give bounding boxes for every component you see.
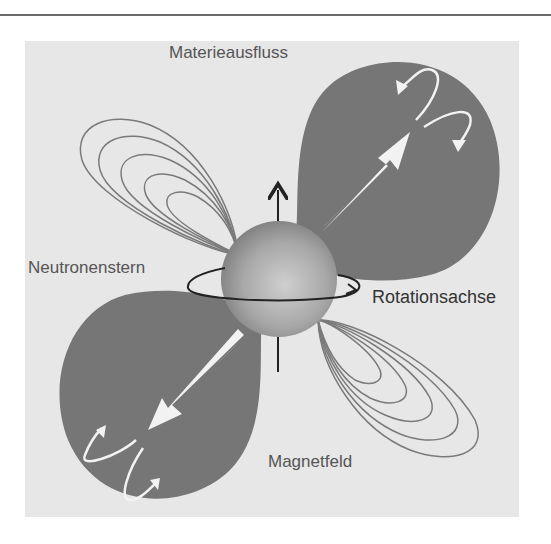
magnetic-field-lines-upper-left xyxy=(80,119,238,255)
label-materieausfluss: Materieausfluss xyxy=(169,43,288,63)
neutron-star-sphere xyxy=(221,221,337,337)
magnetic-field-lines-lower-right xyxy=(318,320,478,457)
lower-outflow-lobe xyxy=(59,291,262,499)
label-rotationsachse: Rotationsachse xyxy=(372,287,496,308)
label-magnetfeld: Magnetfeld xyxy=(268,452,352,472)
label-neutronenstern: Neutronenstern xyxy=(28,258,145,278)
